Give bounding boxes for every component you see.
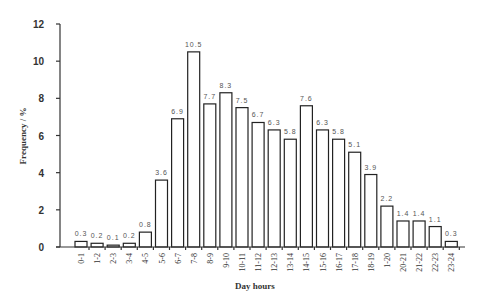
x-tick-label: 2-3 [109,253,118,264]
bar-value-label: 8.3 [220,82,233,89]
x-tick-label: 12-13 [270,253,279,272]
bar-value-label: 5.8 [332,128,345,135]
bar [429,227,441,247]
bar [220,93,232,247]
y-tick-label: 12 [33,19,45,30]
x-tick-label: 1-20 [383,253,392,268]
bar-value-label: 7.7 [203,93,216,100]
bar-value-label: 6.7 [252,111,265,118]
bar-value-label: 1.4 [413,210,426,217]
bar [300,106,312,247]
bar-value-label: 3.6 [155,169,168,176]
bar [156,180,168,247]
bar [188,52,200,247]
bar-value-label: 10.5 [185,41,203,48]
bar-value-label: 3.9 [364,164,377,171]
x-tick-label: 9-10 [222,253,231,268]
bar-value-label: 6.9 [171,108,184,115]
x-tick-label: 20-21 [399,253,408,272]
bar [139,232,151,247]
bar [204,104,216,247]
bar [397,221,409,247]
bar [252,122,264,247]
bar-value-label: 0.3 [75,230,88,237]
x-tick-label: 22-23 [431,253,440,272]
bar [381,206,393,247]
y-axis-ticks: 024681012 [33,19,60,253]
bar [413,221,425,247]
x-tick-label: 5-6 [158,253,167,264]
x-tick-label: 16-17 [335,253,344,272]
bars: 0.30.20.10.20.83.66.910.57.78.37.56.76.3… [75,41,458,247]
bar [445,241,457,247]
y-tick-label: 2 [38,205,44,216]
bar-value-label: 0.3 [445,230,458,237]
y-tick-label: 0 [38,242,44,253]
bar-value-label: 0.2 [123,232,136,239]
bar-value-label: 6.3 [268,119,281,126]
x-tick-label: 17-18 [351,253,360,272]
x-tick-label: 6-7 [174,253,183,264]
bar-value-label: 7.6 [300,95,313,102]
x-tick-label: 21-22 [415,253,424,272]
x-axis-ticks: 0-11-22-33-44-55-66-77-88-99-1010-1111-1… [77,247,459,272]
x-tick-label: 18-19 [367,253,376,272]
y-tick-label: 10 [33,56,45,67]
bar [317,130,329,247]
bar [236,108,248,247]
x-tick-label: 15-16 [319,253,328,272]
x-tick-label: 0-1 [77,253,86,264]
bar [75,241,87,247]
bar-value-label: 6.3 [316,119,329,126]
x-tick-label: 23-24 [447,253,456,272]
bar-value-label: 1.1 [429,216,442,223]
bar [349,152,361,247]
bar [284,139,296,247]
x-tick-label: 8-9 [206,253,215,264]
y-axis-title: Frequency / % [18,108,28,165]
y-tick-label: 8 [38,93,44,104]
bar-value-label: 2.2 [381,195,394,202]
x-tick-label: 7-8 [190,253,199,264]
bar [333,139,345,247]
bar [365,175,377,247]
y-tick-label: 4 [38,168,44,179]
bar [268,130,280,247]
x-tick-label: 14-15 [302,253,311,272]
x-axis-title: Day hours [235,281,275,291]
x-tick-label: 1-2 [93,253,102,264]
x-tick-label: 3-4 [125,253,134,264]
y-tick-label: 6 [38,131,44,142]
bar-value-label: 0.8 [139,221,152,228]
bar-chart: 024681012 0.30.20.10.20.83.66.910.57.78.… [0,0,485,291]
bar-value-label: 5.1 [348,141,361,148]
bar-value-label: 0.1 [107,234,120,241]
bar-value-label: 1.4 [397,210,410,217]
bar-value-label: 5.8 [284,128,297,135]
bar [172,119,184,247]
x-tick-label: 10-11 [238,253,247,271]
bar-value-label: 7.5 [236,97,249,104]
x-tick-label: 13-14 [286,253,295,272]
x-tick-label: 4-5 [141,253,150,264]
bar-value-label: 0.2 [91,232,104,239]
x-tick-label: 11-12 [254,253,263,271]
